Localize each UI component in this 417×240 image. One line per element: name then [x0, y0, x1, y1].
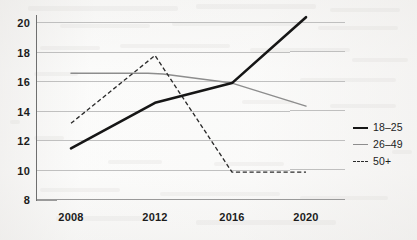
legend-item-26-49: 26–49	[353, 137, 415, 151]
legend-label: 50+	[373, 155, 391, 167]
line-solid-thin-icon	[353, 139, 368, 149]
chart-legend: 18–25 26–49 50+	[353, 120, 415, 171]
line-dashed-icon	[353, 156, 368, 166]
x-tick-label: 2008	[58, 212, 83, 223]
chart-page: 20 18 16 14 12 10 8 2008 2012 2016 2020 …	[0, 0, 417, 240]
legend-label: 26–49	[373, 138, 403, 150]
legend-item-18-25: 18–25	[353, 120, 415, 134]
x-tick-label: 2020	[293, 212, 318, 223]
legend-item-50-plus: 50+	[353, 154, 415, 168]
line-solid-thick-icon	[353, 122, 368, 132]
x-tick-label: 2012	[142, 212, 167, 223]
legend-label: 18–25	[373, 121, 403, 133]
x-tick-label: 2016	[219, 212, 244, 223]
